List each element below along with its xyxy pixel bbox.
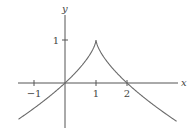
ticks: −1121 (27, 35, 131, 99)
x-tick-label: 1 (93, 88, 99, 99)
x-axis-label: x (181, 77, 187, 88)
function-curve (19, 40, 177, 121)
y-tick-label: 1 (53, 35, 59, 46)
chart: x y −1121 (0, 0, 193, 131)
x-tick-label: −1 (27, 88, 42, 99)
x-tick-label: 2 (124, 88, 130, 99)
y-axis-label: y (61, 3, 68, 14)
